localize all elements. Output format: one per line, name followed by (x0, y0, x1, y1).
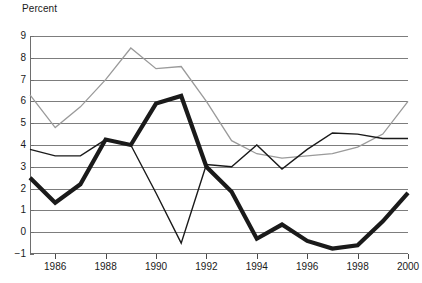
y-axis-tick-label: 4 (20, 140, 26, 150)
x-axis-tick-label: 1998 (346, 261, 368, 273)
y-axis-tick-label: 5 (20, 118, 26, 128)
x-axis-tick (106, 254, 107, 259)
y-axis-tick-labels: 9876543210−1 (0, 36, 26, 254)
y-axis-tick-label: −1 (15, 249, 26, 259)
y-axis-tick-label: 2 (20, 184, 26, 194)
series-thin-black (30, 133, 408, 243)
x-axis-tick (358, 254, 359, 259)
x-axis-tick (307, 254, 308, 259)
plot-area (30, 36, 408, 254)
x-axis-tick-labels: 19861988199019921994199619982000 (0, 261, 422, 275)
x-axis-tick-label: 1990 (145, 261, 167, 273)
y-axis-label: Percent (22, 3, 57, 15)
x-axis-tick-label: 1994 (246, 261, 268, 273)
x-axis-tick-label: 1988 (94, 261, 116, 273)
y-axis-tick-label: 9 (20, 31, 26, 41)
y-axis-tick-label: 3 (20, 162, 26, 172)
x-axis-tick (206, 254, 207, 259)
y-axis-tick-label: 0 (20, 227, 26, 237)
x-axis-tick (257, 254, 258, 259)
y-axis-tick-label: 1 (20, 205, 26, 215)
y-axis-tick-label: 7 (20, 75, 26, 85)
x-axis-tick-label: 2000 (397, 261, 419, 273)
line-chart: Percent 9876543210−1 1986198819901992199… (0, 0, 422, 283)
x-axis-tick (156, 254, 157, 259)
x-axis-tick-label: 1986 (44, 261, 66, 273)
y-axis-tick-label: 8 (20, 53, 26, 63)
x-axis-tick (55, 254, 56, 259)
y-axis-tick-label: 6 (20, 96, 26, 106)
series-thick-black (30, 96, 408, 249)
series-gray (30, 48, 408, 158)
x-axis-tick (408, 254, 409, 259)
x-axis-tick-label: 1996 (296, 261, 318, 273)
x-axis-ticks (30, 254, 408, 260)
x-axis-tick-label: 1992 (195, 261, 217, 273)
series-layer (30, 36, 408, 254)
